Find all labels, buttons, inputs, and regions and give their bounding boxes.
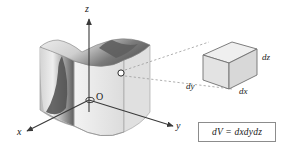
formula-box: dV = dxdydz <box>198 122 276 142</box>
cube-dz-label: dz <box>262 53 270 62</box>
cube-dx-label: dx <box>239 87 248 96</box>
z-axis-label: z <box>85 4 89 14</box>
y-axis-label: y <box>176 121 180 131</box>
x-axis-label: x <box>17 127 21 137</box>
cube-dy-label: dy <box>186 82 195 91</box>
volume-element-cube <box>203 42 257 89</box>
formula-text: dV = dxdydz <box>212 127 262 137</box>
volume-element-point-marker <box>118 70 124 76</box>
origin-label: O <box>96 92 103 102</box>
solid-region <box>40 39 150 136</box>
figure-container: z y x O dz dx dy dV = dxdydz <box>0 0 290 154</box>
